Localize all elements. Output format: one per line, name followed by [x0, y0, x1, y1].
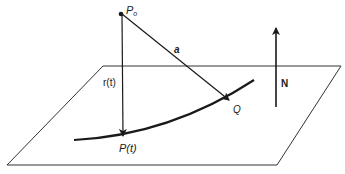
label-r-of-t: r(t) — [103, 77, 116, 88]
label-p-of-t: P(t) — [119, 142, 137, 154]
curve — [74, 80, 254, 140]
label-p0: Po — [126, 4, 137, 17]
vector-r-of-t — [122, 14, 123, 136]
point-p0 — [119, 12, 124, 17]
label-q: Q — [233, 104, 241, 115]
label-vector-a: a — [174, 44, 180, 55]
vector-a — [122, 14, 229, 100]
label-n: N — [281, 78, 288, 89]
diagram-canvas: Po a r(t) P(t) Q N — [0, 0, 345, 174]
plane — [7, 66, 341, 165]
